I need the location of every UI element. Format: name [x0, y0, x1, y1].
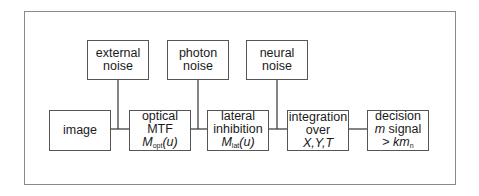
image-label: image — [63, 124, 97, 137]
neural-noise-box: neural noise — [246, 40, 308, 80]
image-box: image — [49, 110, 111, 151]
decision-box: decision m signal > kmn — [367, 110, 429, 151]
integration-line3: X,Y,T — [303, 137, 333, 150]
optical-line1: optical — [142, 110, 178, 123]
photon-noise-box: photon noise — [167, 40, 229, 80]
decision-line3: > kmn — [382, 136, 413, 152]
photon-noise-line2: noise — [183, 60, 213, 73]
integration-box: integration over X,Y,T — [287, 110, 349, 151]
optical-mtf-box: optical MTF Mopt(u) — [129, 110, 191, 151]
lateral-inhibition-box: lateral inhibition Mlat(u) — [207, 110, 269, 151]
lateral-line1: lateral — [221, 110, 255, 123]
lateral-formula: Mlat(u) — [221, 136, 254, 152]
neural-noise-line2: noise — [262, 60, 292, 73]
optical-formula: Mopt(u) — [142, 136, 177, 152]
external-noise-line2: noise — [103, 60, 133, 73]
connection-lines — [0, 0, 479, 196]
external-noise-box: external noise — [87, 40, 149, 80]
